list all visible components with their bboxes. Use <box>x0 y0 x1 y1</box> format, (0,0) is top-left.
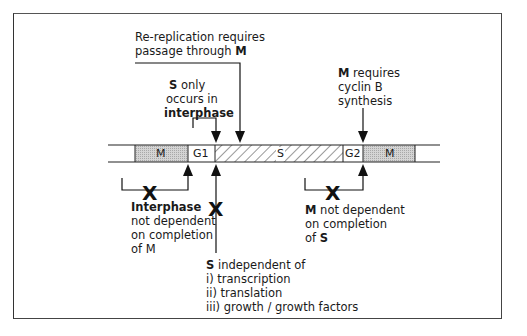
s-independent-item: i) transcription <box>206 272 358 286</box>
s-only-bracket <box>193 118 216 133</box>
segment-label-g1: G1 <box>193 147 209 161</box>
rereplication-label: Re-replication requires passage through … <box>135 30 265 58</box>
arrow-head-down-icon <box>358 131 368 143</box>
m-independent-label: M not dependent on completion of S <box>305 203 405 245</box>
segment-label-g2: G2 <box>345 147 361 161</box>
segment-label-s: S <box>276 147 285 161</box>
arrow-head-down-icon <box>211 131 221 143</box>
s-independent-item: iii) growth / growth factors <box>206 300 358 314</box>
arrow-head-up-icon <box>358 164 368 176</box>
s-independent-label: S independent of i) transcription ii) tr… <box>206 258 358 314</box>
m-requires-label: M requires cyclin B synthesis <box>338 66 400 108</box>
s-only-label: S only occurs in interphase <box>166 78 234 120</box>
arrow-head-down-icon <box>235 131 245 143</box>
s-independent-item: ii) translation <box>206 286 358 300</box>
arrow-head-up-icon <box>183 164 193 176</box>
interphase-independent-label: Interphase not dependent on completion o… <box>131 200 216 256</box>
segment-label-m-right: M <box>385 147 395 161</box>
arrow-head-up-icon <box>211 164 221 176</box>
block-x-icon: X <box>325 181 341 205</box>
segment-label-m-left: M <box>156 147 166 161</box>
